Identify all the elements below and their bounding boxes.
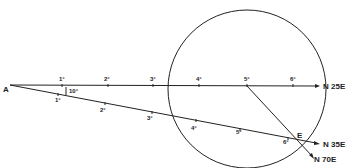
bearing-n25e: N 25E	[323, 82, 346, 91]
lower-tick-3: 3°	[147, 115, 153, 121]
lower-tick-5: 5°	[236, 129, 242, 135]
ray-upper	[10, 85, 315, 86]
lower-tick-4: 4°	[191, 125, 197, 131]
upper-tick-4: 4°	[196, 76, 202, 82]
origin-label: A	[3, 85, 9, 94]
upper-tick-2: 2°	[104, 76, 110, 82]
arrow-lower-icon	[314, 141, 320, 145]
lower-tick-6: 6°	[283, 139, 289, 145]
upper-tick-3: 3°	[150, 76, 156, 82]
intersection-label: E	[297, 131, 303, 140]
circle	[168, 10, 326, 168]
lower-tick-2: 2°	[100, 107, 106, 113]
bearing-n70e: N 70E	[314, 155, 337, 164]
bearing-diagram: A 10° 1° 2° 3° 4° 5° 6° 1° 2° 3° 4° 5° 6…	[0, 0, 361, 168]
angle-label: 10°	[69, 88, 79, 94]
arrow-upper-icon	[315, 84, 320, 88]
upper-tick-5: 5°	[244, 76, 250, 82]
ray-n70e	[247, 86, 312, 156]
ray-lower	[10, 85, 316, 143]
bearing-n35e: N 35E	[323, 140, 346, 149]
lower-tick-1: 1°	[55, 97, 61, 103]
upper-tick-6: 6°	[290, 76, 296, 82]
upper-tick-1: 1°	[59, 76, 65, 82]
